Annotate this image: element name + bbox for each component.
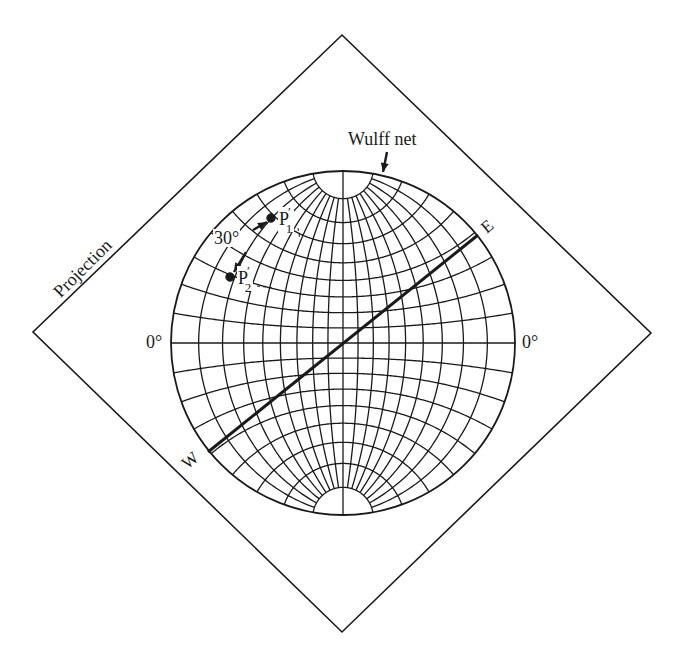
stereographic-diagram bbox=[0, 0, 674, 655]
wulff-net-label: Wulff net bbox=[348, 130, 416, 148]
wulff-net-pointer-arrow-head bbox=[381, 162, 389, 172]
point-p2-prime-dot bbox=[226, 273, 234, 281]
zero-degree-left-label: 0° bbox=[146, 333, 162, 351]
p1-prime-mark: ′ bbox=[288, 204, 291, 219]
point-p1-prime-label: P′1 bbox=[278, 207, 294, 232]
point-p1-prime-dot bbox=[267, 214, 275, 222]
p2-prime-mark: ′ bbox=[247, 263, 250, 278]
point-p2-prime-label: P′2 bbox=[237, 266, 253, 291]
zero-degree-right-label: 0° bbox=[522, 333, 538, 351]
angle-30-label: 30° bbox=[213, 229, 240, 247]
projection-plane-diamond bbox=[33, 35, 651, 632]
p1-subscript: 1 bbox=[286, 221, 293, 236]
p2-subscript: 2 bbox=[245, 280, 252, 295]
wulff-net-figure: Wulff net Projection 0° 0° E W 30° P′1 P… bbox=[0, 0, 674, 655]
